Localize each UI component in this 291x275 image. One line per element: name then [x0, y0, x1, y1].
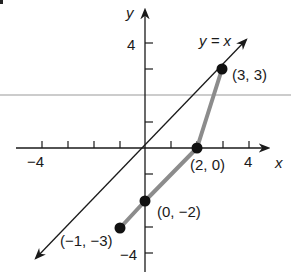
x-axis-label: x: [274, 154, 283, 171]
y-tick-label-4: 4: [127, 36, 135, 53]
x-tick-label-4: 4: [244, 153, 252, 170]
identity-line-label: y = x: [198, 32, 232, 49]
x-axis: [16, 141, 268, 148]
point-label-2-0: (2, 0): [190, 156, 225, 173]
graph: y x 4 −4 −4 4 y = x (3, 3) (2, 0) (0, −2…: [0, 0, 291, 275]
point-3-3: [217, 64, 228, 75]
corner-mark: [0, 0, 3, 4]
point-neg1-neg3: [115, 223, 126, 234]
y-axis-label: y: [125, 4, 135, 21]
point-label-0-neg2: (0, −2): [157, 203, 201, 220]
point-0-neg2: [140, 196, 151, 207]
y-tick-label-neg4: −4: [120, 246, 137, 263]
point-label-3-3: (3, 3): [232, 66, 267, 83]
point-label-neg1-neg3: (−1, −3): [60, 232, 113, 249]
point-2-0: [192, 143, 203, 154]
identity-line: [36, 40, 246, 258]
x-tick-label-neg4: −4: [27, 153, 44, 170]
